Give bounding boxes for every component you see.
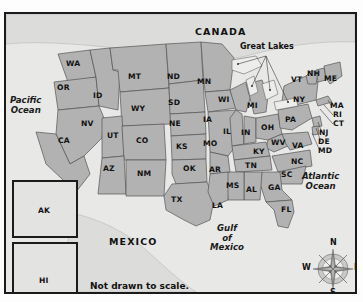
- map-frame: .land{fill:#b2b2b2;stroke:#555;stroke-wi…: [4, 12, 357, 294]
- state-label-HI: HI: [39, 276, 49, 285]
- compass-rose-graphic: [306, 242, 357, 294]
- us-map-figure: .land{fill:#b2b2b2;stroke:#555;stroke-wi…: [0, 0, 363, 302]
- compass-rose: N S W E: [306, 242, 357, 294]
- state-label-AK: AK: [38, 206, 50, 215]
- hawaii-inset: HI: [12, 242, 78, 294]
- alaska-inset: AK: [12, 180, 78, 238]
